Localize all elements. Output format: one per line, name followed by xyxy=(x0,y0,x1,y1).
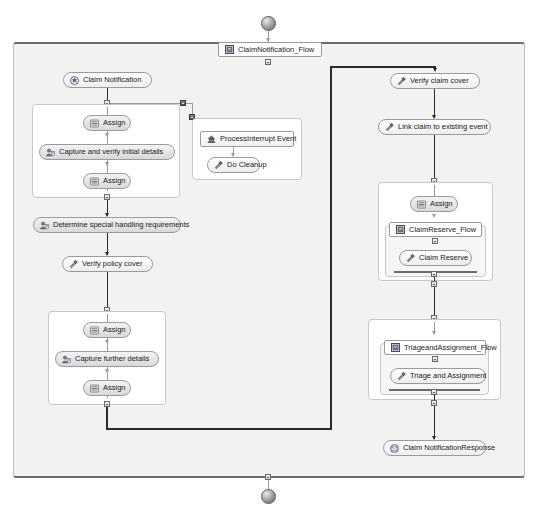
node-claim-reserve-flow-label: ClaimReserve_Flow xyxy=(409,226,476,234)
connector-g1-to-interrupt xyxy=(110,103,186,104)
node-determine-special-label: Determine special handling requirements xyxy=(53,221,189,229)
connector-interrupt-across xyxy=(186,103,193,104)
arrowhead-reserve-flow xyxy=(432,214,436,218)
node-link-claim-label: Link claim to existing event xyxy=(398,123,488,131)
node-claim-response-label: Claim NotificationResponse xyxy=(403,444,495,452)
node-assign-2-label: Assign xyxy=(103,177,126,185)
user-task-icon xyxy=(62,355,71,364)
connector-verify-to-group2 xyxy=(107,272,108,308)
arrowhead-verify-claim xyxy=(433,68,437,72)
service-task-icon xyxy=(397,77,406,86)
node-claim-reserve-flow[interactable]: ClaimReserve_Flow xyxy=(389,222,482,237)
arrowhead-triage-flow xyxy=(432,331,436,335)
start-event-icon[interactable] xyxy=(261,16,276,31)
end-event-icon[interactable] xyxy=(261,489,276,504)
node-assign-1-label: Assign xyxy=(103,119,126,127)
arrowhead-g2-a xyxy=(105,340,109,344)
node-triage-assignment-label: Triage and Assignment xyxy=(410,372,486,380)
node-assign-4-label: Assign xyxy=(103,384,126,392)
user-task-icon xyxy=(46,148,55,157)
assign-list-icon xyxy=(90,177,99,186)
node-link-claim[interactable]: Link claim to existing event xyxy=(378,119,491,135)
node-assign-4[interactable]: Assign xyxy=(83,380,131,396)
subprocess-icon xyxy=(225,45,234,54)
process-diagram-canvas[interactable]: ClaimNotification_Flow Claim Notificatio… xyxy=(0,0,539,516)
node-claim-response[interactable]: Claim NotificationResponse xyxy=(383,440,486,456)
node-capture-further[interactable]: Capture further details xyxy=(55,351,159,367)
route-bottom-across xyxy=(106,428,332,430)
interrupt-event-icon xyxy=(207,135,216,144)
arrowhead-g2-b xyxy=(105,369,109,373)
connector-link-to-reserve-group xyxy=(434,135,435,180)
arrowhead-g1-b xyxy=(105,162,109,166)
process-header-node[interactable]: ClaimNotification_Flow xyxy=(218,42,322,57)
node-capture-initial[interactable]: Capture and verify initial details xyxy=(39,144,175,160)
subprocess-icon xyxy=(391,343,400,352)
node-claim-notification[interactable]: Claim Notification xyxy=(63,72,152,88)
node-capture-further-label: Capture further details xyxy=(75,355,149,363)
node-determine-special[interactable]: Determine special handling requirements xyxy=(33,217,181,233)
service-task-icon xyxy=(214,161,223,170)
node-verify-claim-cover-label: Verify claim cover xyxy=(410,77,469,85)
assign-list-icon xyxy=(90,384,99,393)
service-task-icon xyxy=(406,254,415,263)
node-do-cleanup[interactable]: Do Cleanup xyxy=(207,157,260,173)
node-do-cleanup-label: Do Cleanup xyxy=(227,161,267,169)
assign-list-icon xyxy=(90,326,99,335)
node-triage-flow-label: TriageandAssignment_Flow xyxy=(404,344,497,352)
assign-list-icon xyxy=(417,200,426,209)
node-process-interrupt-label: ProcessInterrupt Event xyxy=(220,135,296,143)
user-task-icon xyxy=(40,221,49,230)
service-task-icon xyxy=(69,260,78,269)
route-top-across xyxy=(330,66,436,68)
process-header-label: ClaimNotification_Flow xyxy=(238,46,314,54)
assign-list-icon xyxy=(90,119,99,128)
node-assign-2[interactable]: Assign xyxy=(83,173,131,189)
node-claim-reserve[interactable]: Claim Reserve xyxy=(399,250,472,266)
node-claim-notification-label: Claim Notification xyxy=(83,76,141,84)
subprocess-icon xyxy=(396,225,405,234)
node-claim-reserve-label: Claim Reserve xyxy=(419,254,468,262)
node-triage-flow[interactable]: TriageandAssignment_Flow xyxy=(384,340,486,355)
connector-reserve-to-triage xyxy=(434,287,435,315)
node-verify-policy[interactable]: Verify policy cover xyxy=(62,256,153,272)
arrowhead-g1-a xyxy=(105,133,109,137)
node-assign-5-label: Assign xyxy=(430,200,453,208)
service-task-icon xyxy=(397,372,406,381)
node-assign-3[interactable]: Assign xyxy=(83,322,131,338)
node-process-interrupt[interactable]: ProcessInterrupt Event xyxy=(200,131,294,147)
connector-triage-to-response xyxy=(434,406,435,439)
node-verify-policy-label: Verify policy cover xyxy=(82,260,142,268)
node-assign-1[interactable]: Assign xyxy=(83,115,131,131)
node-assign-3-label: Assign xyxy=(103,326,126,334)
node-triage-assignment[interactable]: Triage and Assignment xyxy=(390,368,486,384)
message-event-icon xyxy=(70,76,79,85)
service-task-icon xyxy=(385,123,394,132)
node-verify-claim-cover[interactable]: Verify claim cover xyxy=(390,73,480,89)
header-collapse-handle[interactable] xyxy=(265,59,271,65)
node-assign-5[interactable]: Assign xyxy=(410,196,458,212)
route-left-down xyxy=(106,407,108,429)
node-capture-initial-label: Capture and verify initial details xyxy=(59,148,163,156)
message-response-icon xyxy=(390,444,399,453)
handle-triage-flow-collapse[interactable] xyxy=(432,356,438,362)
route-right-up xyxy=(330,66,332,430)
connector-verifyclaim-to-link xyxy=(434,89,435,118)
handle-reserve-flow-collapse[interactable] xyxy=(432,238,438,244)
